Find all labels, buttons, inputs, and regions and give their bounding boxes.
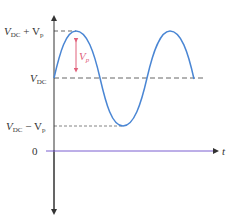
label-t: t: [222, 145, 226, 157]
label-zero: 0: [32, 145, 38, 157]
label-vdc-plus-vp: VDC + Vp: [4, 25, 44, 39]
label-vdc-minus-vp: VDC − Vp: [6, 120, 46, 134]
dc-offset-sine-diagram: Vp VDC + Vp VDC VDC − Vp 0 t: [0, 0, 240, 222]
amplitude-label: Vp: [79, 50, 90, 64]
label-vdc: VDC: [30, 72, 47, 86]
